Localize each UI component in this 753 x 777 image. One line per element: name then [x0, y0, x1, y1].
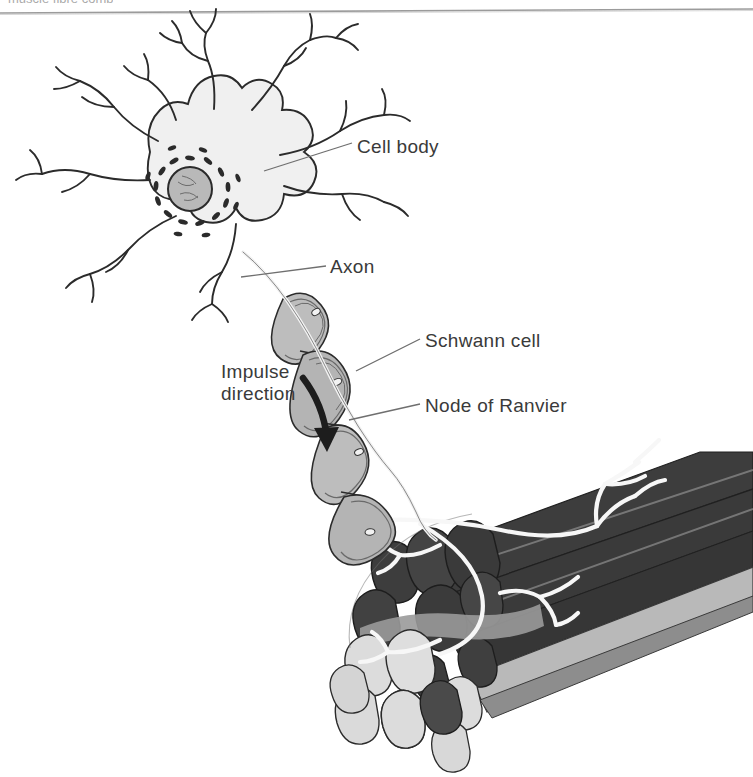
figure-page: muscle fibre comp [0, 0, 753, 777]
label-schwann-cell: Schwann cell [425, 330, 541, 352]
leader-schwann-cell [356, 339, 420, 371]
label-node-of-ranvier: Node of Ranvier [425, 395, 567, 417]
schwann-cell-segment [290, 351, 350, 437]
nucleus [168, 167, 212, 211]
label-impulse-line1: Impulse [221, 361, 296, 383]
leader-axon [241, 266, 326, 277]
leader-node-of-ranvier [349, 404, 420, 420]
page-rule [0, 9, 753, 15]
label-cell-body: Cell body [357, 136, 439, 158]
neuron-muscle-diagram [0, 0, 753, 777]
label-impulse-direction: Impulse direction [221, 361, 296, 406]
muscle-fibre-bundle [330, 452, 753, 772]
label-axon: Axon [330, 256, 375, 278]
label-impulse-line2: direction [221, 383, 296, 405]
